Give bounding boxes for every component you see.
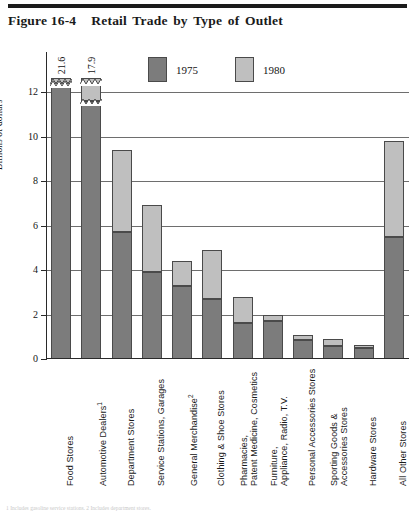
y-tick-mark-4 [41,270,47,271]
bar-segment-1975[interactable] [112,232,132,359]
bar-group[interactable] [142,52,162,359]
y-tick-mark-10 [41,137,47,138]
x-axis-category-labels: Food StoresAutomotive Dealers1Department… [46,362,409,492]
bar-segment-1980[interactable] [112,150,132,232]
category-label: Service Stations, Garages [156,379,166,486]
bar-group[interactable] [51,52,71,359]
bar-segment-1980[interactable] [142,205,162,272]
y-tick-label-8: 8 [14,175,38,186]
bar-segment-1975[interactable] [263,321,283,359]
category-label: Pharmacies,Patent Medicine, Cosmetics [239,372,259,486]
retail-trade-bar-chart: 1975 1980 21.617.9 024681012 Billions of… [0,0,415,516]
bar-segment-1975[interactable] [51,83,71,359]
bar-segment-1980[interactable] [202,250,222,299]
bar-group[interactable] [323,52,343,359]
bar-value-label: 21.6 [56,57,67,75]
category-label: Hardware Stores [368,417,378,486]
plot-area: 21.617.9 [46,52,409,359]
bar-group[interactable] [384,52,404,359]
category-label: Clothing & Shoe Stores [216,390,226,486]
y-tick-mark-8 [41,181,47,182]
y-tick-label-2: 2 [14,309,38,320]
y-tick-label-6: 6 [14,220,38,231]
bar-segment-1980[interactable] [172,261,192,285]
bar-value-label: 17.9 [86,57,97,75]
bar-segment-1975[interactable] [172,286,192,359]
category-label: Food Stores [65,436,75,486]
category-label: Personal Accessories Stores [307,369,317,486]
bar-segment-1975[interactable] [384,237,404,359]
bar-segment-1975[interactable] [202,299,222,359]
y-tick-label-10: 10 [14,131,38,142]
figure-footnote: 1 Includes gasoline service stations. 2 … [6,505,410,511]
y-tick-mark-2 [41,315,47,316]
category-label: All Other Stores [398,421,408,486]
bar-segment-1980[interactable] [384,141,404,237]
y-tick-label-12: 12 [14,86,38,97]
y-tick-mark-6 [41,226,47,227]
axis-break-mark-inner [80,97,102,106]
bar-group[interactable] [202,52,222,359]
bar-group[interactable] [293,52,313,359]
y-tick-mark-0 [41,359,47,360]
bar-segment-1975[interactable] [142,272,162,359]
category-label: General Merchandise2 [186,394,199,486]
y-tick-mark-12 [41,92,47,93]
bar-segment-1975[interactable] [293,340,313,359]
category-label: Sporting Goods &Accessories Stores [329,407,349,486]
y-tick-label-4: 4 [14,264,38,275]
bar-segment-1975[interactable] [81,101,101,359]
axis-break-mark-inner [50,79,72,88]
category-label: Automotive Dealers1 [95,402,108,486]
bar-segment-1980[interactable] [263,315,283,322]
axis-break-mark [80,77,102,86]
category-label: Furniture,Appliance, Radio, T.V. [269,396,289,486]
bar-segment-1980[interactable] [233,297,253,324]
bar-group[interactable] [172,52,192,359]
bar-segment-1975[interactable] [323,346,343,359]
y-axis-title: Billions of dollars [0,99,4,170]
category-label: Department Stores [126,409,136,486]
bar-group[interactable] [263,52,283,359]
x-axis-baseline [46,358,409,359]
y-tick-label-0: 0 [14,353,38,364]
bar-segment-1980[interactable] [323,339,343,346]
bar-group[interactable] [81,52,101,359]
bar-group[interactable] [233,52,253,359]
bar-group[interactable] [112,52,132,359]
bar-segment-1975[interactable] [233,323,253,359]
bar-group[interactable] [354,52,374,359]
